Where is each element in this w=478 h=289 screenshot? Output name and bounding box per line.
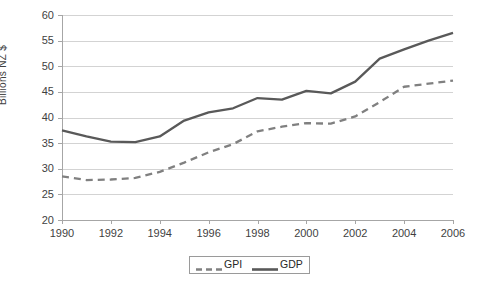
y-tick-label-55: 55 bbox=[28, 35, 54, 46]
x-tick-1992 bbox=[111, 220, 112, 224]
y-tick-45 bbox=[58, 92, 62, 93]
x-tick-label-2000: 2000 bbox=[286, 227, 326, 239]
x-tick-label-2006: 2006 bbox=[433, 227, 473, 239]
x-tick-2002 bbox=[355, 220, 356, 224]
solid-line-swatch bbox=[252, 260, 278, 269]
line-chart: Billions NZ $ 202530354045505560 1990199… bbox=[0, 0, 478, 289]
y-tick-label-40: 40 bbox=[28, 112, 54, 123]
legend-label-gdp: GDP bbox=[280, 259, 303, 270]
x-tick-label-1990: 1990 bbox=[42, 227, 82, 239]
y-axis-title: Billions NZ $ bbox=[0, 45, 8, 105]
x-tick-2006 bbox=[453, 220, 454, 224]
dashed-line-swatch bbox=[196, 260, 222, 269]
y-axis-labels: 202530354045505560 bbox=[24, 0, 54, 289]
y-tick-label-45: 45 bbox=[28, 86, 54, 97]
x-tick-label-1992: 1992 bbox=[91, 227, 131, 239]
y-tick-25 bbox=[58, 194, 62, 195]
gridline-30 bbox=[62, 169, 453, 170]
y-tick-label-35: 35 bbox=[28, 138, 54, 149]
legend-item-gdp: GDP bbox=[252, 259, 303, 270]
x-tick-label-1998: 1998 bbox=[238, 227, 278, 239]
gridline-50 bbox=[62, 66, 453, 67]
y-tick-35 bbox=[58, 143, 62, 144]
x-tick-label-2004: 2004 bbox=[384, 227, 424, 239]
y-tick-label-50: 50 bbox=[28, 61, 54, 72]
y-tick-label-25: 25 bbox=[28, 189, 54, 200]
x-tick-1996 bbox=[209, 220, 210, 224]
x-tick-2000 bbox=[306, 220, 307, 224]
legend-label-gpi: GPI bbox=[224, 259, 242, 270]
legend-item-gpi: GPI bbox=[196, 259, 242, 270]
gridline-35 bbox=[62, 143, 453, 144]
plot-area bbox=[62, 15, 453, 220]
gridline-25 bbox=[62, 194, 453, 195]
gridline-60 bbox=[62, 15, 453, 16]
y-tick-60 bbox=[58, 15, 62, 16]
y-tick-label-60: 60 bbox=[28, 10, 54, 21]
gridline-45 bbox=[62, 92, 453, 93]
y-tick-label-30: 30 bbox=[28, 163, 54, 174]
gridline-55 bbox=[62, 41, 453, 42]
y-tick-40 bbox=[58, 118, 62, 119]
x-tick-label-1996: 1996 bbox=[189, 227, 229, 239]
x-tick-2004 bbox=[404, 220, 405, 224]
x-tick-label-2002: 2002 bbox=[335, 227, 375, 239]
x-tick-1990 bbox=[62, 220, 63, 224]
y-tick-55 bbox=[58, 41, 62, 42]
gridline-40 bbox=[62, 118, 453, 119]
y-axis-line bbox=[62, 15, 63, 221]
chart-legend: GPI GDP bbox=[189, 256, 310, 274]
x-tick-1994 bbox=[160, 220, 161, 224]
y-tick-30 bbox=[58, 169, 62, 170]
y-tick-50 bbox=[58, 66, 62, 67]
x-tick-label-1994: 1994 bbox=[140, 227, 180, 239]
y-tick-label-20: 20 bbox=[28, 215, 54, 226]
x-tick-1998 bbox=[258, 220, 259, 224]
